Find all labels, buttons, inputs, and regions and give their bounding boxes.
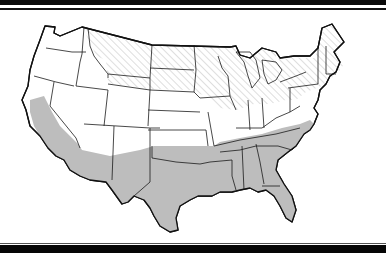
border-id-west — [76, 27, 84, 86]
bottom-frame-bar — [0, 245, 386, 253]
border-wa-or — [46, 48, 86, 52]
bottom-frame-rule — [0, 243, 386, 244]
border-ne-ks — [148, 110, 200, 112]
us-map — [0, 0, 386, 253]
border-ut-co — [108, 84, 150, 126]
region-southern-gray — [30, 96, 314, 232]
border-sd-ne — [150, 90, 194, 92]
border-four-corners-row — [84, 124, 160, 128]
border-mo-east — [208, 112, 214, 146]
border-nv-ut — [76, 86, 108, 126]
southern-gray-area — [30, 96, 314, 232]
border-ks-ok — [148, 130, 208, 146]
border-or-ca-nv — [34, 76, 74, 86]
